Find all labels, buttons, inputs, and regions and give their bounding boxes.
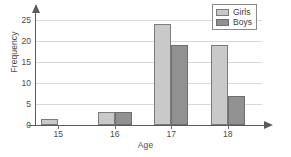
- legend: Girls Boys: [212, 4, 257, 30]
- y-axis-arrow-icon: [32, 4, 40, 13]
- y-axis-tick-label: 10: [9, 78, 31, 88]
- legend-item-girls: Girls: [216, 7, 252, 17]
- y-axis-tick-label: 25: [9, 15, 31, 25]
- legend-swatch-icon-girls: [216, 9, 229, 16]
- x-axis-line: [28, 125, 265, 126]
- bar-girls-16: [98, 112, 115, 125]
- x-axis-arrow-icon: [264, 121, 273, 129]
- bar-boys-17: [171, 45, 188, 125]
- x-axis-tick-label: 15: [41, 129, 75, 139]
- bar-girls-17: [154, 24, 171, 125]
- gridline: [36, 62, 262, 63]
- plot-area: [36, 20, 262, 125]
- x-axis-tick-label: 16: [98, 129, 132, 139]
- y-axis-tick-label: 20: [9, 36, 31, 46]
- y-axis-tick-label: 5: [9, 99, 31, 109]
- gridline: [36, 41, 262, 42]
- legend-label-boys: Boys: [233, 17, 252, 27]
- legend-item-boys: Boys: [216, 17, 252, 27]
- bar-girls-18: [211, 45, 228, 125]
- bar-boys-16: [115, 112, 132, 125]
- x-axis-title: Age: [0, 140, 291, 150]
- x-axis-tick-label: 18: [211, 129, 245, 139]
- y-axis-title: Frequency: [9, 17, 19, 87]
- y-axis-line: [35, 11, 36, 126]
- legend-swatch-icon-boys: [216, 19, 229, 26]
- x-axis-tick-label: 17: [154, 129, 188, 139]
- legend-label-girls: Girls: [233, 7, 250, 17]
- y-axis-tick-label: 15: [9, 57, 31, 67]
- bar-boys-18: [228, 96, 245, 125]
- gridline: [36, 83, 262, 84]
- bar-chart: Frequency Age 0510152025 15161718 Girls …: [0, 0, 291, 157]
